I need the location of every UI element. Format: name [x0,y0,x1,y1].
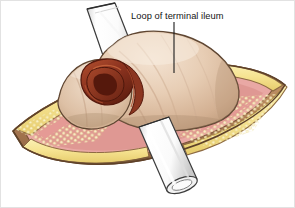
medical-illustration: Loop of terminal ileum [1,1,295,208]
illustration-canvas: Loop of terminal ileum [0,0,295,208]
annotation-label: Loop of terminal ileum [131,11,224,21]
